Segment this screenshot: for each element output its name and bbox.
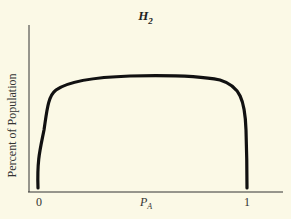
h2-curve — [38, 76, 247, 188]
x-tick-1: 1 — [244, 195, 250, 210]
x-tick-0: 0 — [36, 195, 42, 210]
chart-plot — [0, 0, 291, 219]
x-axis-label: PA — [140, 195, 152, 211]
